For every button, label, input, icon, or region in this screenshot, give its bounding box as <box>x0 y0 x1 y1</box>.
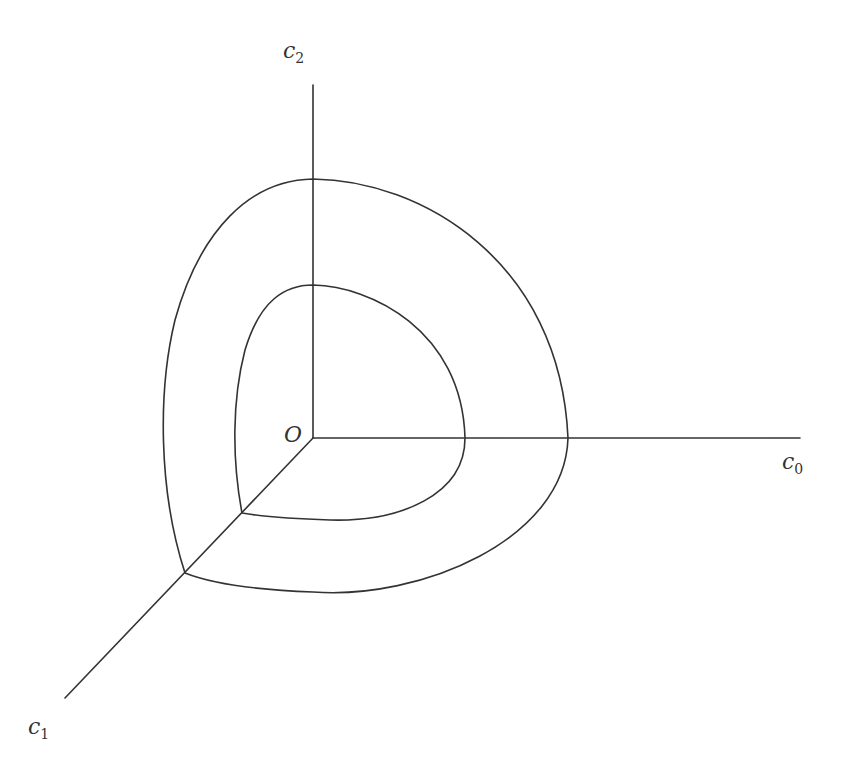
c2-symbol: c <box>283 38 295 63</box>
c2-subscript: 2 <box>295 50 304 66</box>
c1-subscript: 1 <box>40 726 49 742</box>
c0-symbol: c <box>782 449 794 474</box>
axis-c1 <box>65 438 313 698</box>
axis-c2-label: c2 <box>283 40 304 65</box>
diagram-canvas <box>0 0 842 768</box>
c0-subscript: 0 <box>794 461 803 477</box>
axis-c0-label: c0 <box>782 451 803 476</box>
c1-symbol: c <box>28 714 40 739</box>
origin-label-text: O <box>284 422 302 447</box>
axis-c1-label: c1 <box>28 716 49 741</box>
origin-label: O <box>284 424 302 446</box>
